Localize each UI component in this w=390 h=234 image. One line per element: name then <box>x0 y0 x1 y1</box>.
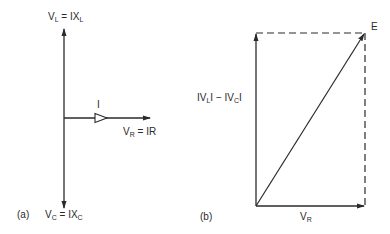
vl-label: VL = IXL <box>48 11 83 22</box>
current-label: I <box>97 99 100 110</box>
vr-label: VR = IR <box>123 126 156 137</box>
current-direction-icon <box>95 114 107 123</box>
phasor-diagram <box>0 0 390 234</box>
resultant-e-arrow <box>256 34 364 206</box>
vc-label: VC = IXC <box>45 209 83 220</box>
panel-a-tag: (a) <box>17 209 29 220</box>
panel-b-tag: (b) <box>200 211 212 222</box>
panel-a-phasors <box>64 29 150 208</box>
reactive-voltage-label: IVLI − IVCI <box>197 92 242 103</box>
panel-b-phasors <box>256 33 365 206</box>
resultant-e-label: E <box>371 21 378 32</box>
resistive-voltage-label: VR <box>300 211 312 222</box>
